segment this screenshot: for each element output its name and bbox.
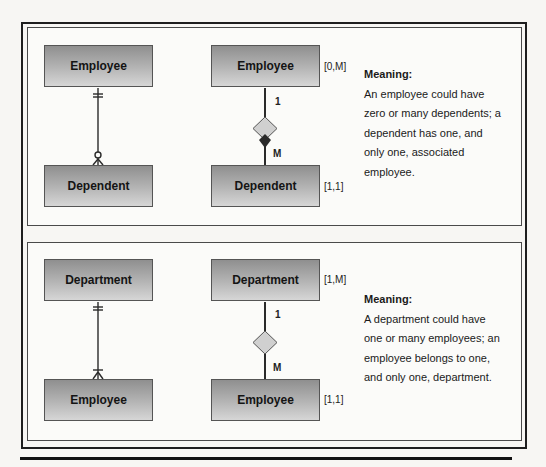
entity-employee-chen: Employee <box>211 45 320 87</box>
cardinality-label: [1,1] <box>324 181 343 192</box>
cardinality-label: [0,M] <box>324 61 346 72</box>
entity-employee-crowsfoot: Employee <box>44 45 153 87</box>
meaning-title: Meaning: <box>364 65 519 85</box>
entity-dependent-chen: Dependent <box>211 165 320 207</box>
meaning-text-block: Meaning: A department could have one or … <box>364 290 519 388</box>
meaning-line: An employee could have <box>364 85 519 105</box>
meaning-line: zero or many dependents; a <box>364 104 519 124</box>
cardinality-label: [1,M] <box>324 274 346 285</box>
cardinality-label: [1,1] <box>324 394 343 405</box>
meaning-line: employee. <box>364 163 519 183</box>
entity-department-chen: Department <box>211 259 320 301</box>
meaning-line: only one, associated <box>364 143 519 163</box>
horizontal-rule <box>20 457 512 460</box>
entity-department-crowsfoot: Department <box>44 259 153 301</box>
connectivity-label: M <box>273 148 281 159</box>
crowsfoot-connector-top <box>93 88 103 165</box>
meaning-line: A department could have <box>364 310 519 330</box>
meaning-line: one or many employees; an <box>364 329 519 349</box>
meaning-line: dependent has one, and <box>364 124 519 144</box>
meaning-text-block: Meaning: An employee could have zero or … <box>364 65 519 182</box>
connectivity-label: M <box>273 362 281 373</box>
entity-dependent-crowsfoot: Dependent <box>44 165 153 207</box>
crowsfoot-connector-bottom <box>93 302 103 379</box>
connectivity-label: 1 <box>275 96 281 107</box>
crowfoot-icon <box>93 372 98 379</box>
relationship-diamond-icon <box>253 331 277 354</box>
connectivity-label: 1 <box>275 309 281 320</box>
meaning-title: Meaning: <box>364 290 519 310</box>
zero-circle-icon <box>95 152 101 158</box>
entity-employee-chen: Employee <box>211 379 320 421</box>
meaning-line: and only one, department. <box>364 368 519 388</box>
meaning-line: employee belongs to one, <box>364 349 519 369</box>
entity-employee-crowsfoot: Employee <box>44 379 153 421</box>
